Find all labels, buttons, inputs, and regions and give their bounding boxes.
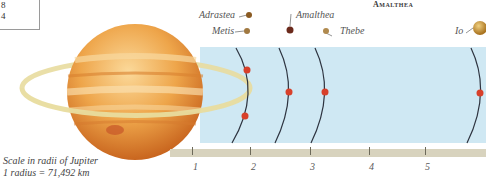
jupiter-planet-icon (67, 24, 203, 160)
label-metis: Metis (212, 25, 234, 36)
orbit-amalthea (275, 48, 289, 143)
tick-label-5: 5 (425, 161, 430, 172)
adrastea-moon-icon (246, 12, 252, 18)
tick-label-3: 3 (310, 161, 315, 172)
label-io: Io (455, 25, 463, 36)
io-moon-icon (473, 21, 486, 35)
label-thebe: Thebe (340, 25, 364, 36)
tick-label-1: 1 (193, 161, 198, 172)
scale-note-line2: 1 radius = 71,492 km (3, 167, 89, 179)
tick-label-2: 2 (251, 161, 256, 172)
metis-moon-icon (244, 28, 250, 34)
tick-label-4: 4 (369, 161, 374, 172)
amalthea-moon-icon (287, 27, 294, 34)
tick-2 (250, 147, 251, 155)
orbit-thebe (311, 48, 325, 143)
great-red-spot (106, 125, 124, 135)
scale-note-line1: Scale in radii of Jupiter (3, 155, 98, 167)
tick-5 (425, 147, 426, 155)
thebe-moon-icon (323, 28, 329, 34)
tick-1 (192, 147, 193, 155)
tick-3 (310, 147, 311, 155)
label-adrastea: Adrastea (199, 9, 235, 20)
tick-4 (369, 147, 370, 155)
label-amalthea: Amalthea (296, 9, 334, 20)
scale-bar (170, 149, 486, 157)
orbit-lines (232, 48, 481, 143)
orbit-markers (242, 67, 484, 120)
